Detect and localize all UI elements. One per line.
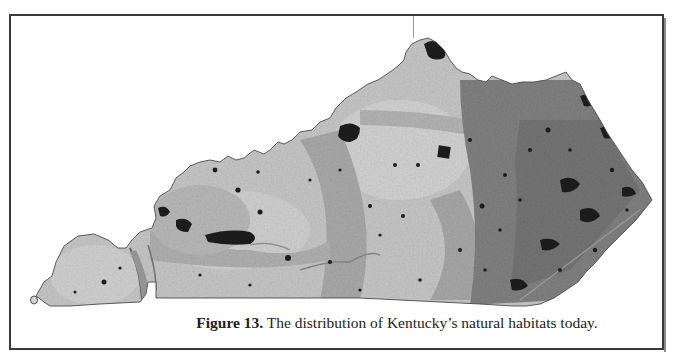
figure-caption: Figure 13. The distribution of Kentucky’… bbox=[0, 314, 674, 332]
figure-label: Figure 13. bbox=[196, 314, 263, 331]
kentucky-habitat-map bbox=[0, 0, 674, 356]
caption-text: The distribution of Kentucky’s natural h… bbox=[263, 314, 597, 331]
